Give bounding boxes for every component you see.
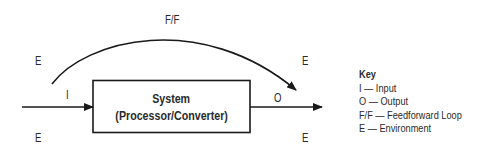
- environment-label-top-left: E: [35, 54, 41, 68]
- key-item-feedforward: F/F — Feedforward Loop: [359, 109, 462, 123]
- key-legend: Key I — Input O — Output F/F — Feedforwa…: [359, 68, 477, 136]
- key-title: Key: [359, 68, 462, 82]
- input-label: I: [66, 88, 69, 102]
- key-item-environment: E — Environment: [359, 122, 462, 136]
- system-box-label: System (Processor/Converter): [93, 80, 250, 133]
- key-item-input: I — Input: [359, 82, 462, 96]
- environment-label-bottom-right: E: [302, 131, 308, 145]
- environment-label-top-right: E: [302, 54, 308, 68]
- key-item-output: O — Output: [359, 95, 462, 109]
- environment-label-bottom-left: E: [35, 131, 41, 145]
- system-subtitle: (Processor/Converter): [115, 107, 228, 124]
- feedforward-label: F/F: [165, 13, 179, 27]
- output-label: O: [274, 91, 281, 105]
- system-title: System: [153, 90, 191, 107]
